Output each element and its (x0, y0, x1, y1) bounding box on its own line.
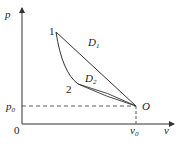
region-D2-label: D2 (84, 72, 97, 86)
v0-label: v0 (130, 124, 139, 138)
curve-2-to-O-lower (78, 84, 136, 106)
origin-label: 0 (14, 124, 20, 136)
point-1-label: 1 (49, 25, 55, 37)
region-D1-label: D1 (87, 36, 99, 50)
point-2-label: 2 (66, 83, 72, 95)
curve-2-to-O-upper (78, 84, 136, 106)
curve-1-to-2 (56, 32, 78, 84)
p0-label: p0 (5, 100, 16, 114)
y-axis-label: p (4, 8, 11, 20)
pv-diagram: p v 0 p0 v0 1 2 O D1 D2 (0, 0, 179, 144)
x-axis-label: v (164, 124, 169, 136)
point-O-label: O (142, 100, 150, 112)
